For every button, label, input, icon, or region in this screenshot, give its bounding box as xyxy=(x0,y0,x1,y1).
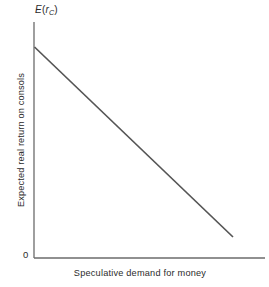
y-axis-symbol-subscript: C xyxy=(49,8,54,17)
y-axis-symbol-main: E xyxy=(35,4,42,15)
chart-plot-area xyxy=(0,0,269,287)
figure-container: E(rC) 0 Expected real return on consols … xyxy=(0,0,269,287)
speculative-demand-line xyxy=(35,47,234,237)
y-axis-symbol: E(rC) xyxy=(35,4,58,15)
origin-label: 0 xyxy=(23,249,28,260)
y-axis-symbol-close-paren: ) xyxy=(54,4,58,15)
